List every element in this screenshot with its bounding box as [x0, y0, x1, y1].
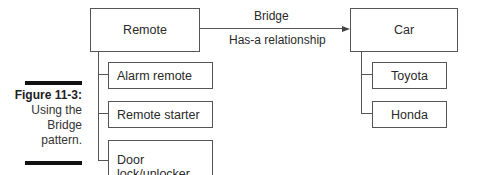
caption-line-2: Bridge	[0, 118, 82, 133]
bridge-label: Bridge	[254, 9, 289, 23]
car-label: Car	[394, 23, 414, 37]
car-tree-trunk	[361, 52, 362, 114]
bridge-arrow-line	[199, 28, 343, 29]
remote-tree-trunk	[98, 52, 99, 160]
honda-box: Honda	[372, 101, 447, 128]
remote-label: Remote	[123, 23, 167, 37]
door-lock-label: Door lock/unlocker	[117, 153, 212, 175]
toyota-box: Toyota	[372, 62, 447, 89]
car-box: Car	[350, 8, 458, 52]
remote-starter-box: Remote starter	[108, 101, 213, 128]
remote-starter-label: Remote starter	[117, 108, 200, 122]
arrowhead-icon	[342, 26, 350, 32]
caption-line-3: pattern.	[0, 133, 82, 148]
toyota-label: Toyota	[391, 69, 428, 83]
car-branch-1	[361, 74, 372, 75]
door-lock-box: Door lock/unlocker	[108, 140, 213, 175]
alarm-remote-label: Alarm remote	[117, 69, 192, 83]
figure-number: Figure 11-3:	[0, 88, 82, 103]
caption-bottom-bar	[25, 161, 82, 165]
honda-label: Honda	[391, 108, 428, 122]
has-a-label: Has-a relationship	[229, 33, 326, 47]
caption-line-1: Using the	[0, 103, 82, 118]
figure-caption: Figure 11-3: Using the Bridge pattern.	[0, 88, 82, 148]
alarm-remote-box: Alarm remote	[108, 62, 213, 89]
caption-top-bar	[25, 81, 82, 85]
car-branch-2	[361, 113, 372, 114]
remote-box: Remote	[90, 8, 200, 52]
